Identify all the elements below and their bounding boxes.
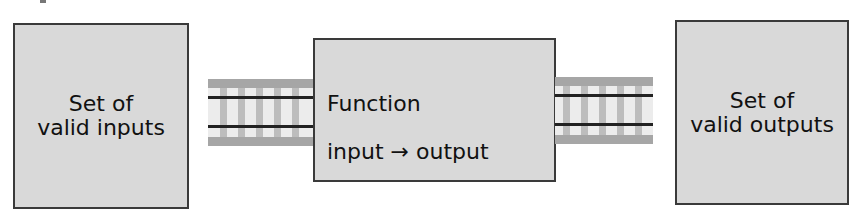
output-set-label: Set of valid outputs	[690, 89, 834, 137]
function-mapping: input → output	[327, 140, 489, 164]
function-box: Function input → output	[313, 38, 556, 182]
input-track-connector	[208, 79, 314, 146]
output-track-connector	[555, 77, 653, 144]
input-set-label: Set of valid inputs	[37, 92, 165, 140]
input-set-box: Set of valid inputs	[13, 23, 189, 209]
output-set-box: Set of valid outputs	[675, 20, 849, 205]
top-edge-fragment	[40, 0, 46, 3]
function-title: Function	[327, 92, 489, 116]
